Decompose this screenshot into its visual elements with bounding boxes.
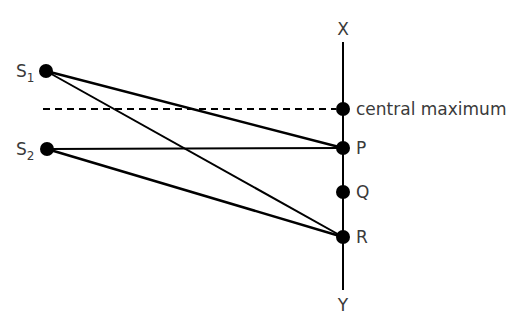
path-s1-r: [46, 71, 343, 237]
point-p-dot: [336, 141, 350, 155]
point-p-label: P: [356, 138, 366, 158]
source-s2-dot: [40, 142, 54, 156]
point-r-dot: [336, 230, 350, 244]
double-slit-diagram: S1 S2 X Y central maximum P Q R: [0, 0, 523, 326]
screen-bottom-label: Y: [337, 295, 349, 315]
source-s1-dot: [39, 64, 53, 78]
central-maximum-label: central maximum: [356, 99, 506, 119]
screen-top-label: X: [337, 19, 349, 39]
source-s2-label: S2: [16, 139, 34, 163]
source-s1-label: S1: [16, 61, 34, 85]
central-maximum-dot: [336, 102, 350, 116]
path-s2-r: [47, 149, 343, 237]
point-q-dot: [336, 185, 350, 199]
point-q-label: Q: [356, 182, 369, 202]
path-s2-p: [47, 148, 343, 149]
point-r-label: R: [356, 227, 368, 247]
